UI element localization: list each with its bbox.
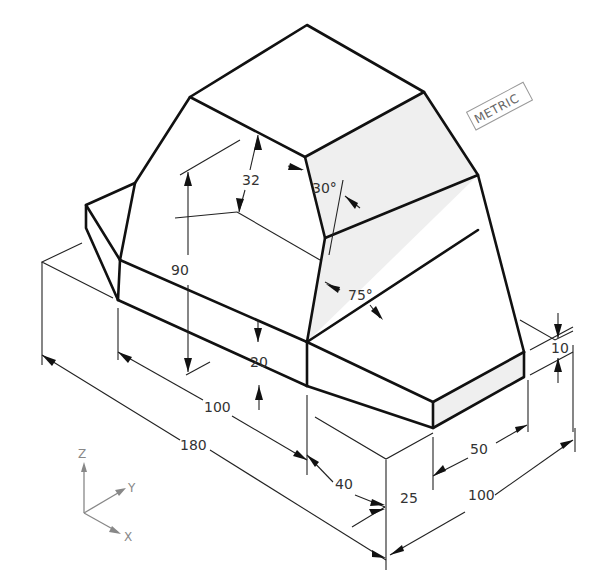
dim-32: 32 bbox=[242, 172, 260, 188]
axis-y-label: Y bbox=[127, 481, 136, 495]
dim-100-lower: 100 bbox=[204, 399, 231, 415]
dim-180: 180 bbox=[180, 437, 207, 453]
axis-triad: Z Y X bbox=[78, 447, 136, 544]
dim-50: 50 bbox=[470, 441, 488, 457]
dim-90: 90 bbox=[171, 262, 189, 278]
dim-100-right: 100 bbox=[468, 487, 495, 503]
dim-10: 10 bbox=[551, 340, 569, 356]
dimension-lines bbox=[42, 135, 575, 570]
axis-x-label: X bbox=[124, 530, 132, 544]
shaded-faces bbox=[305, 92, 524, 428]
angle-75: 75° bbox=[348, 287, 373, 303]
metric-badge: METRIC bbox=[467, 82, 533, 130]
dim-20: 20 bbox=[250, 354, 268, 370]
isometric-drawing: 180 100 90 32 20 40 25 100 50 10 30° 75°… bbox=[0, 0, 600, 585]
axis-z-label: Z bbox=[78, 447, 86, 461]
object-edges bbox=[86, 25, 524, 428]
right-ledge-face bbox=[433, 352, 524, 428]
angle-30: 30° bbox=[312, 180, 337, 196]
dim-25: 25 bbox=[400, 490, 418, 506]
dim-40: 40 bbox=[335, 476, 353, 492]
